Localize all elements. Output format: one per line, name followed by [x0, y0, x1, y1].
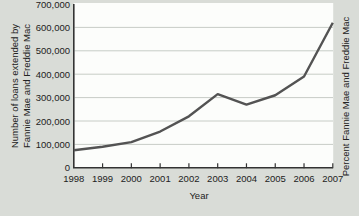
left-axis-title-line1: Number of loans extended by: [9, 1, 21, 171]
y-tick-label: 300,000: [36, 92, 70, 103]
x-axis-title: Year: [169, 190, 229, 201]
y-tick-label: 700,000: [36, 0, 70, 10]
right-axis-title: Percent Fannie Mae and Freddie Mac: [340, 2, 353, 192]
y-tick-label: 400,000: [36, 69, 70, 80]
chart-figure: Number of loans extended by Fannie Mae a…: [0, 0, 359, 216]
y-tick-label: 100,000: [36, 139, 70, 150]
y-tick-label: 600,000: [36, 22, 70, 33]
left-axis-title: Number of loans extended by Fannie Mae a…: [9, 1, 33, 171]
y-tick-label: 500,000: [36, 45, 70, 56]
plot-area: [73, 3, 334, 169]
y-tick-label: 0: [65, 162, 70, 173]
y-tick-label: 200,000: [36, 116, 70, 127]
left-axis-title-line2: Fannie Mae and Freddie Mac: [21, 1, 33, 171]
